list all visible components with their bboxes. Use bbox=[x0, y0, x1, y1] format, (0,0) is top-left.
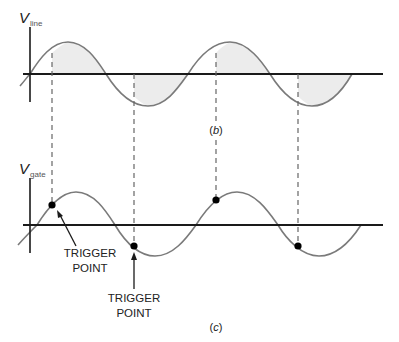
trigger-point-dot-4 bbox=[294, 242, 301, 249]
axis-label-sub: gate bbox=[30, 170, 46, 179]
trigger-point-dot-1 bbox=[48, 201, 55, 208]
trigger-label-line1: TRIGGER bbox=[108, 291, 160, 306]
gate-voltage-axis-label: Vgate bbox=[19, 161, 46, 179]
shaded-region-4 bbox=[298, 74, 352, 106]
trigger-point-dot-2 bbox=[130, 242, 137, 249]
shaded-region-2 bbox=[134, 74, 188, 106]
panel-label-b: (b) bbox=[209, 125, 222, 136]
line-voltage-axis-label: Vline bbox=[19, 10, 42, 28]
line-voltage-panel bbox=[20, 27, 383, 106]
trigger-label-line2: POINT bbox=[108, 306, 160, 321]
waveform-diagram bbox=[0, 0, 399, 342]
paren-close: ) bbox=[219, 124, 223, 136]
trigger-point-label-2: TRIGGER POINT bbox=[108, 291, 160, 321]
paren-close: ) bbox=[219, 321, 223, 333]
axis-label-sub: line bbox=[30, 19, 42, 28]
trigger-point-label-1: TRIGGER POINT bbox=[64, 246, 116, 276]
arrowhead-icon bbox=[131, 252, 137, 260]
axis-label-main: V bbox=[19, 160, 29, 177]
arrowhead-icon bbox=[57, 210, 63, 218]
trigger-label-line2: POINT bbox=[64, 261, 116, 276]
panel-label-c: (c) bbox=[210, 322, 223, 333]
shaded-region-3 bbox=[216, 42, 270, 74]
axis-label-main: V bbox=[19, 9, 29, 26]
trigger-point-dot-3 bbox=[212, 196, 219, 203]
diagram-canvas: Vline (b) Vgate TRIGGER POINT TRIGGER PO… bbox=[0, 0, 399, 342]
trigger-label-line1: TRIGGER bbox=[64, 246, 116, 261]
trigger-arrow-1 bbox=[57, 210, 76, 246]
shaded-region-1 bbox=[52, 42, 106, 74]
trigger-arrow-2 bbox=[131, 252, 137, 289]
